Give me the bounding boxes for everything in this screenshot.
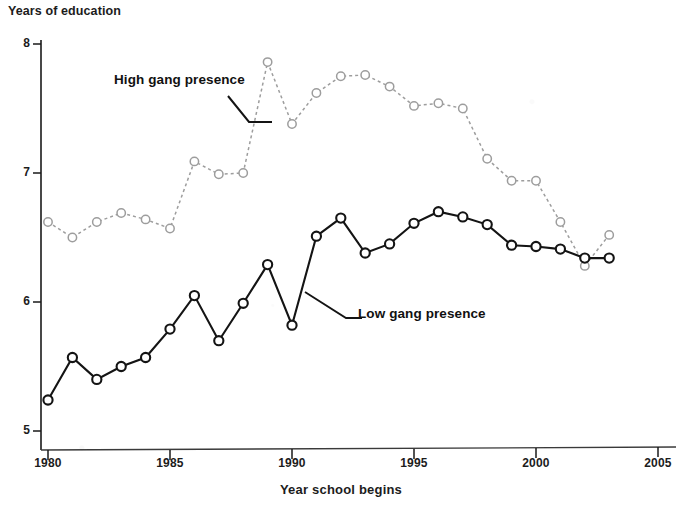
data-point: [239, 169, 247, 177]
data-point: [68, 353, 77, 362]
plot-canvas: [0, 0, 682, 509]
data-point: [117, 209, 125, 217]
data-point: [507, 241, 516, 250]
data-point: [214, 336, 223, 345]
data-point: [263, 260, 272, 269]
data-point: [117, 362, 126, 371]
data-point: [361, 248, 370, 257]
data-point: [44, 218, 52, 226]
data-point: [166, 224, 174, 232]
data-point: [336, 214, 345, 223]
data-point: [312, 89, 320, 97]
data-point: [190, 157, 198, 165]
data-point: [385, 82, 393, 90]
data-point: [605, 254, 614, 263]
data-point: [556, 218, 564, 226]
annotation-leader-low: [305, 292, 362, 318]
data-point: [93, 218, 101, 226]
data-point: [239, 299, 248, 308]
data-point: [580, 254, 589, 263]
data-point: [287, 321, 296, 330]
data-point: [483, 155, 491, 163]
data-point: [141, 353, 150, 362]
data-point: [434, 99, 442, 107]
data-point: [312, 232, 321, 241]
data-point: [458, 212, 467, 221]
data-point: [215, 170, 223, 178]
data-point: [507, 177, 515, 185]
axes-group: [33, 40, 676, 460]
chart-figure: Years of education Year school begins 8 …: [0, 0, 682, 509]
data-point: [141, 215, 149, 223]
annotation-leader-high: [228, 96, 272, 122]
data-point: [43, 395, 52, 404]
data-point: [337, 72, 345, 80]
data-point: [68, 233, 76, 241]
data-point: [385, 239, 394, 248]
data-point: [361, 71, 369, 79]
data-point: [605, 231, 613, 239]
series-high-gang-presence: [44, 58, 614, 270]
y-tick-marks: [33, 44, 41, 431]
data-point: [556, 245, 565, 254]
data-point: [434, 207, 443, 216]
data-point: [165, 325, 174, 334]
x-axis-line: [41, 447, 676, 450]
data-point: [263, 58, 271, 66]
data-point: [410, 102, 418, 110]
data-point: [532, 177, 540, 185]
data-point: [459, 104, 467, 112]
data-point: [288, 120, 296, 128]
data-point: [92, 375, 101, 384]
data-point: [483, 220, 492, 229]
data-point: [190, 291, 199, 300]
data-point: [409, 219, 418, 228]
data-point: [531, 242, 540, 251]
